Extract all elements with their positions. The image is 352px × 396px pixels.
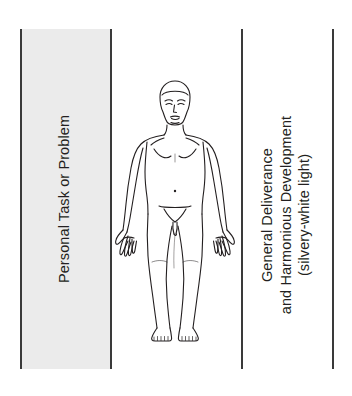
human-body-outline-icon (114, 76, 236, 346)
right-column-label: General Deliverance and Harmonious Devel… (258, 116, 315, 314)
left-column-label: Personal Task or Problem (56, 115, 72, 283)
right-column-label-line-3: (silvery-white light) (295, 116, 314, 314)
diagram-canvas: Personal Task or Problem General Deliver… (0, 0, 352, 396)
right-column-label-line-2: and Harmonious Development (277, 116, 296, 314)
vertical-rule-4 (332, 29, 334, 369)
vertical-rule-2 (110, 29, 112, 369)
vertical-rule-1 (20, 29, 22, 369)
right-column-label-container: General Deliverance and Harmonious Devel… (241, 45, 331, 385)
right-column-label-line-1: General Deliverance (258, 116, 277, 314)
left-column-label-container: Personal Task or Problem (35, 29, 93, 369)
